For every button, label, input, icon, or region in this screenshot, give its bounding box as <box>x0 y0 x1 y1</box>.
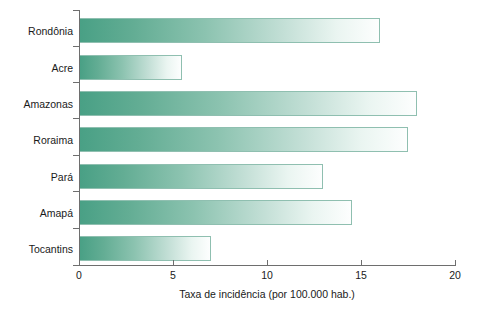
x-axis-tick <box>455 260 456 266</box>
y-axis-label-amapa: Amapá <box>40 207 73 219</box>
x-axis-tick-label-5: 5 <box>170 269 176 281</box>
bar-tocantins <box>79 236 211 261</box>
bar-amazonas <box>79 91 417 116</box>
y-axis-label-rondonia: Rondônia <box>28 25 73 37</box>
bar-acre <box>79 55 182 80</box>
y-axis-label-amazonas: Amazonas <box>23 98 73 110</box>
x-axis-title-text: Taxa de incidência (por 100.000 hab.) <box>179 288 355 300</box>
x-axis-tick <box>361 260 362 266</box>
x-axis-tick-label-0: 0 <box>76 269 82 281</box>
bar-para <box>79 164 323 189</box>
y-axis-label-acre: Acre <box>51 62 73 74</box>
x-axis-tick-label-10: 10 <box>261 269 273 281</box>
bar-roraima <box>79 127 408 152</box>
x-axis-tick <box>79 260 80 266</box>
x-axis-title: Taxa de incidência (por 100.000 hab.) <box>0 288 498 300</box>
y-axis-line <box>79 10 80 265</box>
bar-amapa <box>79 200 352 225</box>
y-axis-label-para: Pará <box>51 171 73 183</box>
x-axis-tick <box>173 260 174 266</box>
x-axis-tick-label-20: 20 <box>449 269 461 281</box>
y-axis-label-tocantins: Tocantins <box>29 243 73 255</box>
x-axis-tick <box>267 260 268 266</box>
y-axis-label-roraima: Roraima <box>33 134 73 146</box>
bar-rondonia <box>79 18 380 43</box>
x-axis-tick-label-15: 15 <box>355 269 367 281</box>
bar-chart: Rondônia Acre Amazonas Roraima Pará Amap… <box>0 0 498 316</box>
